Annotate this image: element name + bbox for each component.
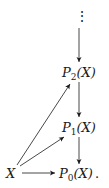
p0-letter: P: [59, 166, 68, 181]
p2-letter: P: [62, 65, 71, 80]
node-p2: P2(X): [62, 66, 96, 82]
arrow-x-to-p1: [20, 137, 64, 166]
node-p0: P0(X).: [59, 167, 99, 183]
node-p1: P1(X): [62, 121, 96, 137]
p1-letter: P: [62, 120, 71, 135]
p1-arg: (X): [76, 120, 95, 135]
p2-arg: (X): [76, 65, 95, 80]
commutative-diagram: ⋮ P2(X) P1(X) P0(X). X: [0, 0, 109, 188]
p0-arg: (X): [73, 166, 92, 181]
diagram-arrows: [0, 0, 109, 188]
x-label: X: [6, 166, 15, 181]
node-x: X: [6, 167, 15, 180]
ellipsis-node: ⋮: [75, 9, 89, 23]
vertical-ellipsis: ⋮: [75, 8, 89, 24]
p0-trailing-period: .: [95, 166, 99, 181]
